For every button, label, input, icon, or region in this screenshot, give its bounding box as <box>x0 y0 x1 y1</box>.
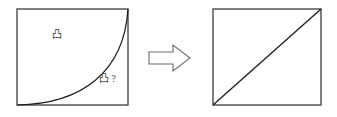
figure-container: 凸 凸 ? <box>0 0 337 117</box>
lower-region-label: 凸 ? <box>99 73 117 84</box>
right-panel-group <box>213 9 321 105</box>
upper-region-label: 凸 <box>52 29 62 40</box>
left-panel-frame <box>17 9 128 105</box>
transformation-diagram: 凸 凸 ? <box>0 0 337 117</box>
right-arrow-icon <box>149 45 190 71</box>
left-panel-group: 凸 凸 ? <box>17 9 128 105</box>
arrow-group <box>149 45 190 71</box>
